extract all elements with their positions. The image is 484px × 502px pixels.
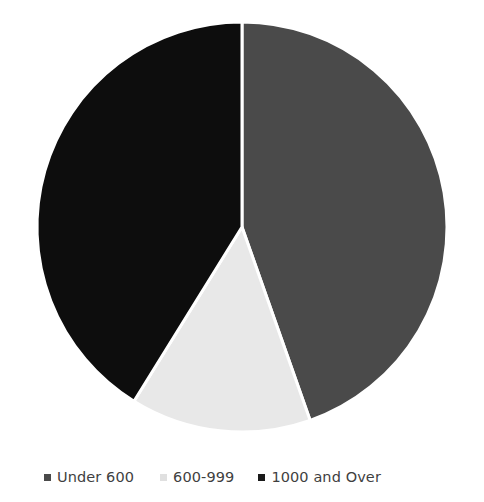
legend-label-1000-and-over: 1000 and Over [271, 470, 381, 485]
legend-item-under-600[interactable]: Under 600 [44, 470, 134, 485]
legend-label-600-999: 600-999 [173, 470, 234, 485]
pie-svg [0, 0, 484, 450]
legend-swatch-icon-1000-and-over [258, 474, 265, 481]
pie-slice-group [37, 22, 447, 432]
legend-swatch-icon-600-999 [160, 474, 167, 481]
chart-legend: Under 600 600-999 1000 and Over [0, 462, 484, 492]
pie-plot-area [0, 0, 484, 450]
legend-label-under-600: Under 600 [57, 470, 134, 485]
legend-item-1000-and-over[interactable]: 1000 and Over [258, 470, 381, 485]
legend-swatch-icon-under-600 [44, 474, 51, 481]
legend-item-600-999[interactable]: 600-999 [160, 470, 234, 485]
pie-chart-figure: Under 600 600-999 1000 and Over [0, 0, 484, 502]
